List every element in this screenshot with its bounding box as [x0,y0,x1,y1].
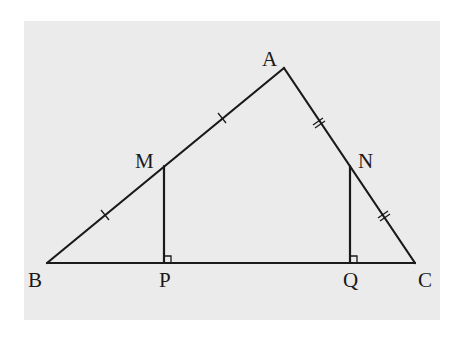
label-A: A [262,47,278,71]
label-B: B [28,268,42,292]
label-Q: Q [343,268,358,292]
label-P: P [159,268,171,292]
label-M: M [135,149,154,173]
diagram-panel [24,21,440,320]
triangle-diagram: A B C M N P Q [0,0,463,337]
label-C: C [418,268,432,292]
label-N: N [358,149,373,173]
